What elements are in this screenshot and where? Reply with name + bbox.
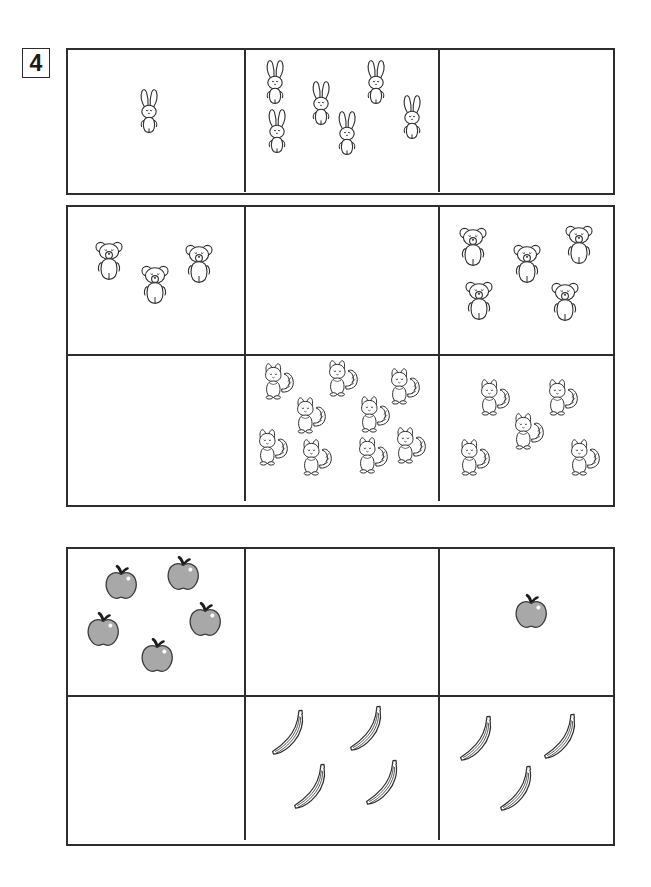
- apple-cell-left[interactable]: [68, 549, 244, 695]
- exercise-number-badge: 4: [22, 48, 50, 78]
- squirrel-icon: [254, 428, 290, 466]
- bear-cell-middle[interactable]: [244, 207, 439, 354]
- squirrel-row: [68, 354, 613, 501]
- bear-icon: [456, 225, 490, 267]
- banana-cell-right[interactable]: [438, 697, 613, 841]
- apple-icon: [138, 637, 176, 675]
- rabbit-icon: [308, 80, 334, 126]
- rabbit-row: [68, 50, 613, 192]
- bear-icon: [92, 239, 126, 281]
- bear-icon: [462, 279, 496, 321]
- worksheet-page: 4: [0, 0, 651, 887]
- bear-row: [68, 207, 613, 354]
- squirrel-icon: [324, 359, 360, 397]
- bear-icon: [548, 280, 582, 322]
- apple-icon: [102, 564, 140, 602]
- bear-icon: [562, 223, 596, 265]
- squirrel-cell-left[interactable]: [68, 356, 244, 501]
- squirrel-icon: [260, 362, 296, 400]
- banana-icon: [362, 759, 402, 807]
- banana-icon: [540, 713, 580, 761]
- rabbit-icon: [264, 108, 290, 154]
- bear-cell-right[interactable]: [438, 207, 613, 354]
- banana-cell-middle[interactable]: [244, 697, 439, 841]
- rabbit-cell-left[interactable]: [68, 50, 244, 192]
- squirrel-icon: [354, 436, 390, 474]
- squirrel-icon: [476, 378, 512, 416]
- banana-cell-left[interactable]: [68, 697, 244, 841]
- fruit-block: [66, 547, 615, 846]
- apple-icon: [512, 593, 550, 631]
- banana-icon: [456, 715, 496, 763]
- squirrel-icon: [292, 396, 328, 434]
- rabbit-icon: [136, 88, 162, 134]
- squirrel-icon: [510, 412, 546, 450]
- bear-icon: [182, 242, 216, 284]
- bear-icon: [138, 263, 172, 305]
- rabbit-icon: [363, 59, 389, 105]
- squirrel-icon: [544, 378, 580, 416]
- rabbit-icon: [399, 94, 425, 140]
- apple-cell-right[interactable]: [438, 549, 613, 695]
- apple-icon: [164, 555, 202, 593]
- rabbit-cell-middle[interactable]: [244, 50, 439, 192]
- banana-icon: [496, 765, 536, 813]
- squirrel-icon: [298, 438, 334, 476]
- apple-icon: [84, 611, 122, 649]
- squirrel-icon: [392, 426, 428, 464]
- squirrel-cell-middle[interactable]: [244, 356, 439, 501]
- banana-icon: [290, 763, 330, 811]
- rabbit-block: [66, 48, 615, 195]
- apple-row: [68, 549, 613, 695]
- banana-icon: [346, 705, 386, 753]
- rabbit-cell-right[interactable]: [438, 50, 613, 192]
- banana-icon: [268, 709, 308, 757]
- squirrel-icon: [356, 395, 392, 433]
- banana-row: [68, 695, 613, 841]
- apple-icon: [186, 601, 224, 639]
- apple-cell-middle[interactable]: [244, 549, 439, 695]
- squirrel-cell-right[interactable]: [438, 356, 613, 501]
- bear-cell-left[interactable]: [68, 207, 244, 354]
- squirrel-icon: [566, 438, 602, 476]
- bear-icon: [510, 242, 544, 284]
- rabbit-icon: [334, 110, 360, 156]
- bear-squirrel-block: [66, 205, 615, 507]
- squirrel-icon: [456, 438, 492, 476]
- rabbit-icon: [262, 59, 288, 105]
